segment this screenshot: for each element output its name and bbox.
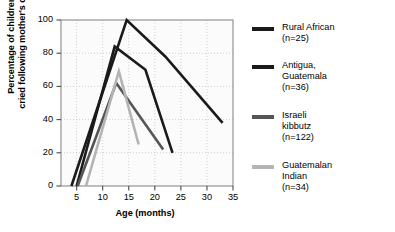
x-tick-label: 25 bbox=[169, 192, 193, 202]
legend-label: Israeli kibbutz (n=122) bbox=[282, 110, 392, 144]
chart-figure: Percentage of children who cried followi… bbox=[0, 0, 395, 232]
x-tick-label: 5 bbox=[65, 192, 89, 202]
legend-swatch bbox=[252, 27, 274, 31]
y-tick-label: 100 bbox=[25, 15, 53, 24]
legend-label: Guatemalan Indian (n=34) bbox=[282, 160, 392, 194]
legend-swatch bbox=[252, 115, 274, 119]
x-tick-label: 20 bbox=[143, 192, 167, 202]
x-tick-label: 10 bbox=[91, 192, 115, 202]
legend-swatch bbox=[252, 165, 274, 169]
legend-swatch bbox=[252, 65, 274, 69]
y-tick-label: 80 bbox=[25, 48, 53, 57]
y-tick-label: 40 bbox=[25, 115, 53, 124]
y-tick-label: 0 bbox=[25, 181, 53, 190]
legend-label: Antigua, Guatemala (n=36) bbox=[282, 60, 392, 94]
y-tick-label: 20 bbox=[25, 148, 53, 157]
x-tick-label: 30 bbox=[195, 192, 219, 202]
x-tick-label: 35 bbox=[221, 192, 245, 202]
legend-label: Rural African (n=25) bbox=[282, 22, 392, 44]
x-tick-label: 15 bbox=[117, 192, 141, 202]
y-tick-label: 60 bbox=[25, 81, 53, 90]
